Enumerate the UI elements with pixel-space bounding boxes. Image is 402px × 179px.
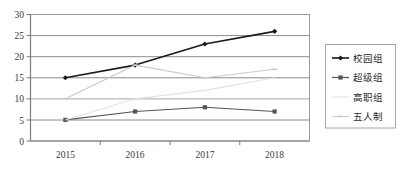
x-tick-label-2017: 2017 <box>195 150 214 160</box>
line-chart: 30 25 20 15 10 5 0 2015 2016 2017 2018 校… <box>0 0 402 179</box>
x-tick-label-2016: 2016 <box>126 150 145 160</box>
chart-canvas: 30 25 20 15 10 5 0 2015 2016 2017 2018 校… <box>0 0 402 179</box>
y-tick-label-20: 20 <box>15 52 25 62</box>
data-point-1-1 <box>133 109 137 113</box>
legend-swatch-marker-1 <box>338 75 342 79</box>
legend-label-2: 高职组 <box>353 92 383 103</box>
y-tick-label-0: 0 <box>19 137 24 147</box>
data-point-1-3 <box>273 109 277 113</box>
y-tick-label-25: 25 <box>15 31 25 41</box>
y-axis-tick-labels: 30 25 20 15 10 5 0 <box>15 10 25 147</box>
y-tick-label-10: 10 <box>15 94 25 104</box>
y-tick-label-5: 5 <box>19 116 24 126</box>
legend-label-1: 超级组 <box>353 72 383 83</box>
x-axis-ticks <box>100 141 240 145</box>
y-tick-label-15: 15 <box>15 73 25 83</box>
x-axis-tick-labels: 2015 2016 2017 2018 <box>56 150 284 160</box>
legend: 校园组超级组高职组五人制 <box>326 45 396 129</box>
legend-label-3: 五人制 <box>353 111 383 122</box>
legend-label-0: 校园组 <box>353 53 383 64</box>
data-point-1-2 <box>203 105 207 109</box>
x-tick-label-2018: 2018 <box>265 150 284 160</box>
x-tick-label-2015: 2015 <box>56 150 75 160</box>
y-tick-label-30: 30 <box>15 10 25 20</box>
